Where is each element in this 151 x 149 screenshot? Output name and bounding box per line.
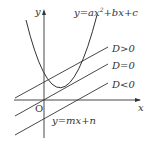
- line-family-label: y=mx+n: [51, 115, 96, 126]
- y-axis-label: y: [34, 6, 41, 17]
- y-axis-arrow-icon: [42, 9, 46, 15]
- origin-label: O: [35, 103, 43, 114]
- parabola-curve: [26, 15, 97, 88]
- label-d-negative: D<0: [111, 79, 135, 90]
- x-axis-label: x: [138, 102, 144, 113]
- parabola-label: y=ax2+bx+c: [73, 6, 138, 18]
- label-d-positive: D>0: [111, 43, 135, 54]
- label-d-zero: D=0: [111, 60, 135, 71]
- discriminant-diagram: y x O y=ax2+bx+c D>0 D=0 D<0 y=mx+n: [0, 0, 151, 149]
